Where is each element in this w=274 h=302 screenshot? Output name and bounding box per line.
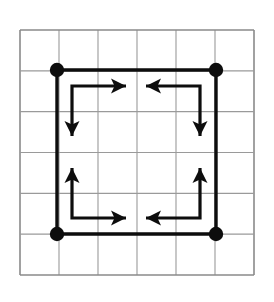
bottom-right-dot	[209, 227, 223, 241]
bottom-left-dot	[50, 227, 64, 241]
grid-circulation-diagram	[0, 0, 274, 302]
top-left-dot	[50, 63, 64, 77]
top-right-dot	[209, 63, 223, 77]
figure-root	[0, 0, 274, 302]
